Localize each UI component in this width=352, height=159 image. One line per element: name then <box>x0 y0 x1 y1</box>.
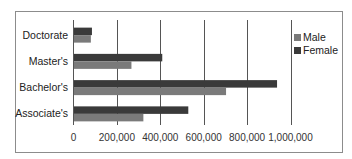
x-tick-label: 200,000 <box>99 132 136 143</box>
legend-swatch-male <box>294 34 301 41</box>
bar-female <box>74 54 163 62</box>
x-tick-label: 1,000,000 <box>268 132 313 143</box>
x-tick-label: 400,000 <box>142 132 179 143</box>
bar-female <box>74 80 278 88</box>
category-label: Associate's <box>15 107 68 119</box>
x-tick-label: 600,000 <box>186 132 223 143</box>
legend-label-female: Female <box>303 44 338 56</box>
category-label: Master's <box>29 55 68 67</box>
bar-male <box>74 88 227 96</box>
legend-label-male: Male <box>303 31 326 43</box>
x-tick-label: 0 <box>71 132 77 143</box>
category-label: Doctorate <box>22 29 68 41</box>
bar-male <box>74 61 132 69</box>
bar-male <box>74 35 91 43</box>
bar-female <box>74 28 92 36</box>
bar-male <box>74 114 144 122</box>
x-tick-labels: 0200,000400,000600,000800,0001,000,000 <box>71 132 313 143</box>
bar-female <box>74 106 189 114</box>
legend-swatch-female <box>294 47 301 54</box>
x-tick-label: 800,000 <box>229 132 266 143</box>
bar-chart: DoctorateMaster'sBachelor'sAssociate's 0… <box>0 0 352 159</box>
category-label: Bachelor's <box>19 81 68 93</box>
